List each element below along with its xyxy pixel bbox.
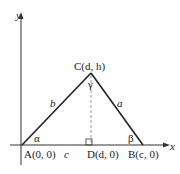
diagram-svg: y x C(d, h) A(0, 0) D(d, 0) B(c, 0) b a … bbox=[0, 0, 180, 174]
point-d-label: D(d, 0) bbox=[87, 148, 119, 161]
y-axis-label: y bbox=[15, 9, 21, 21]
x-axis-label: x bbox=[169, 140, 175, 152]
side-c-label: c bbox=[64, 148, 69, 160]
side-a bbox=[91, 73, 143, 145]
side-a-label: a bbox=[117, 97, 123, 109]
angle-alpha-label: α bbox=[34, 132, 40, 144]
side-b-label: b bbox=[50, 97, 56, 109]
side-b bbox=[22, 73, 91, 145]
angle-beta-label: β bbox=[128, 132, 134, 144]
triangle-diagram: y x C(d, h) A(0, 0) D(d, 0) B(c, 0) b a … bbox=[0, 0, 180, 174]
point-c-label: C(d, h) bbox=[74, 60, 106, 73]
x-axis-arrow-icon bbox=[163, 143, 170, 148]
angle-gamma-label: γ bbox=[87, 78, 93, 90]
point-b-label: B(c, 0) bbox=[128, 148, 159, 161]
point-a-label: A(0, 0) bbox=[24, 148, 56, 161]
